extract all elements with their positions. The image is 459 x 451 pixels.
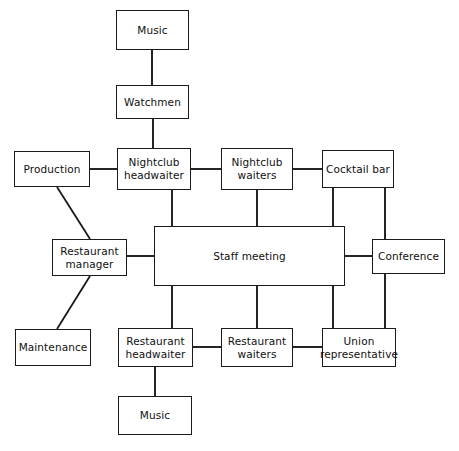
node-staff-meeting[interactable]: Staff meeting [154, 226, 345, 286]
node-music-top[interactable]: Music [116, 10, 189, 50]
node-conference[interactable]: Conference [372, 239, 445, 274]
node-nightclub-headwaiter[interactable]: Nightclub headwaiter [117, 148, 191, 190]
node-label-restaurant-waiters: Restaurant waiters [225, 335, 289, 361]
node-restaurant-waiters[interactable]: Restaurant waiters [221, 328, 293, 367]
node-label-restaurant-manager: Restaurant manager [57, 245, 121, 271]
node-union-representative[interactable]: Union representative [322, 328, 396, 367]
node-label-nightclub-waiters: Nightclub waiters [228, 156, 285, 182]
node-label-music-bottom: Music [137, 409, 173, 422]
node-label-union-representative: Union representative [317, 335, 401, 361]
node-label-cocktail-bar: Cocktail bar [323, 163, 393, 176]
node-label-nightclub-headwaiter: Nightclub headwaiter [121, 156, 187, 182]
node-label-staff-meeting: Staff meeting [210, 250, 289, 263]
node-label-restaurant-headwaiter: Restaurant headwaiter [122, 335, 188, 361]
node-cocktail-bar[interactable]: Cocktail bar [322, 150, 394, 188]
node-restaurant-manager[interactable]: Restaurant manager [52, 239, 127, 276]
node-label-production: Production [21, 163, 84, 176]
edge-production--restaurant-manager [57, 187, 90, 239]
edge-restaurant-manager--maintenance [57, 276, 90, 329]
node-production[interactable]: Production [14, 151, 90, 187]
node-restaurant-headwaiter[interactable]: Restaurant headwaiter [118, 328, 193, 367]
node-label-music-top: Music [134, 24, 170, 37]
node-nightclub-waiters[interactable]: Nightclub waiters [221, 148, 293, 190]
node-watchmen[interactable]: Watchmen [116, 85, 189, 119]
node-label-maintenance: Maintenance [16, 341, 91, 354]
node-label-conference: Conference [375, 250, 442, 263]
node-music-bottom[interactable]: Music [118, 396, 192, 435]
node-label-watchmen: Watchmen [121, 96, 184, 109]
node-maintenance[interactable]: Maintenance [15, 329, 91, 366]
diagram-canvas: MusicWatchmenProductionNightclub headwai… [0, 0, 459, 451]
